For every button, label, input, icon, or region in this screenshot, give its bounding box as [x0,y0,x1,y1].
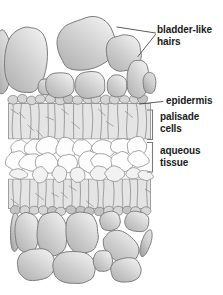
aqueous-tissue-layer [5,136,153,183]
label-aqueous-tissue: aqueous tissue [160,145,200,169]
label-epidermis: epidermis [166,95,212,107]
palisade-layer-top [9,104,151,140]
bladder-hairs-bottom [10,211,152,283]
leaf-cross-section-figure: bladder-like hairs epidermis palisade ce… [0,0,223,295]
label-palisade-cells: palisade cells [160,111,199,135]
leader-line-bladder-hairs-1 [117,27,156,33]
leader-line-bladder-hairs-2 [138,35,156,57]
label-bladder-like-hairs: bladder-like hairs [157,24,212,48]
palisade-layer-bottom [9,179,153,209]
epidermis-layer-top [8,94,147,104]
bracket-aqueous-tissue [148,143,153,173]
bladder-hairs-top [0,16,156,98]
